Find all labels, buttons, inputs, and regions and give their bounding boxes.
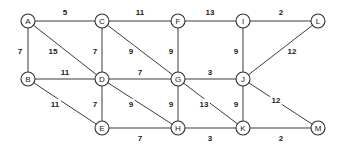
edge-weight-label-i-l: 2 — [279, 8, 284, 17]
edge-weight-label-g-h: 9 — [169, 100, 174, 109]
graph-node-k[interactable]: K — [236, 121, 250, 135]
edge-weight-label-i-j: 9 — [234, 47, 239, 56]
edge-weight-label-g-k: 13 — [200, 100, 209, 109]
node-label-k: K — [240, 124, 246, 133]
edge-weight-label-d-g: 7 — [138, 68, 143, 77]
edge-weight-label-k-m: 2 — [279, 134, 284, 143]
edge-weight-label-j-l: 12 — [288, 47, 297, 56]
edge-weight-label-e-h: 7 — [138, 134, 143, 143]
node-label-e: E — [99, 124, 104, 133]
graph-node-i[interactable]: I — [236, 14, 250, 28]
edge-weight-label-f-i: 13 — [206, 8, 215, 17]
graph-node-l[interactable]: L — [311, 14, 325, 28]
graph-node-m[interactable]: M — [311, 121, 325, 135]
edge-weight-label-d-h: 9 — [129, 100, 134, 109]
graph-edge-b-e — [34, 83, 96, 124]
graph-diagram: 51113271579991211731179913912732 ACFILBD… — [0, 0, 340, 147]
graph-edge-d-h — [108, 83, 172, 124]
edge-weight-label-c-f: 11 — [136, 8, 145, 17]
node-label-i: I — [242, 17, 244, 26]
node-label-d: D — [99, 75, 105, 84]
graph-node-g[interactable]: G — [171, 72, 185, 86]
node-label-m: M — [315, 124, 322, 133]
edge-weight-label-j-k: 9 — [234, 100, 239, 109]
node-label-j: J — [241, 75, 245, 84]
node-label-a: A — [25, 17, 31, 26]
edge-weight-label-c-g: 9 — [129, 47, 134, 56]
graph-node-j[interactable]: J — [236, 72, 250, 86]
edge-weight-label-j-m: 12 — [272, 96, 281, 105]
edge-weight-label-d-e: 7 — [93, 100, 98, 109]
edge-weight-label-a-d: 15 — [49, 47, 58, 56]
graph-node-c[interactable]: C — [95, 14, 109, 28]
node-label-b: B — [25, 75, 30, 84]
edge-weight-label-g-j: 3 — [208, 68, 213, 77]
edge-weights-layer: 51113271579991211731179913912732 — [16, 7, 297, 143]
node-label-l: L — [316, 17, 321, 26]
node-label-g: G — [175, 75, 181, 84]
graph-node-b[interactable]: B — [21, 72, 35, 86]
graph-edge-j-l — [249, 25, 313, 74]
graph-node-f[interactable]: F — [171, 14, 185, 28]
graph-svg: 51113271579991211731179913912732 ACFILBD… — [0, 0, 340, 147]
graph-node-a[interactable]: A — [21, 14, 35, 28]
edge-weight-label-a-b: 7 — [18, 47, 23, 56]
edge-weight-label-a-c: 5 — [63, 8, 68, 17]
node-label-f: F — [176, 17, 181, 26]
edge-weight-label-h-k: 3 — [208, 134, 213, 143]
graph-node-d[interactable]: D — [95, 72, 109, 86]
graph-node-e[interactable]: E — [95, 121, 109, 135]
edge-weight-label-b-d: 11 — [61, 68, 70, 77]
edge-weight-label-c-d: 7 — [93, 47, 98, 56]
edge-weight-label-f-g: 9 — [169, 47, 174, 56]
graph-node-h[interactable]: H — [171, 121, 185, 135]
edge-weight-label-b-e: 11 — [51, 100, 60, 109]
node-label-h: H — [175, 124, 181, 133]
node-label-c: C — [99, 17, 105, 26]
graph-edge-g-k — [184, 83, 238, 124]
